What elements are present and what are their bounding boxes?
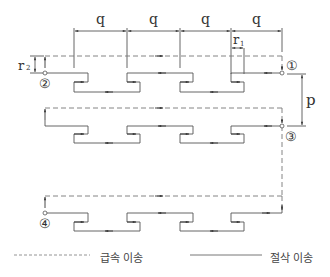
r1-subscript: 1 [240,40,244,48]
point-1-marker [280,71,284,75]
toolpath-diagram: q q q q r 1 r 2 p ① ② ③ ④ [0,0,330,277]
r2-subscript: 2 [26,64,30,72]
point-2-label: ② [39,76,51,91]
p-label: p [306,91,316,109]
legend-rapid-label: 급속 이송 [100,249,144,265]
point-4-marker [43,211,47,215]
q-label-4: q [252,11,261,27]
r1-label: r [233,32,240,47]
point-2-marker [43,71,47,75]
q-label-1: q [96,11,105,27]
legend-cut-label: 절삭 이송 [270,249,314,265]
q-label-2: q [149,11,158,27]
r2-label: r [18,58,25,73]
q-label-3: q [201,11,210,27]
point-3-marker [280,124,284,128]
point-1-label: ① [286,58,298,73]
point-4-label: ④ [39,216,51,231]
point-3-label: ③ [285,129,297,144]
